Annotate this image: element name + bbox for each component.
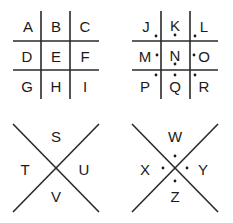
letter-h: H — [51, 78, 62, 95]
x-dotted: W X Y Z — [132, 124, 218, 212]
letter-u: U — [79, 161, 90, 178]
letter-v: V — [51, 188, 61, 205]
letter-j: J — [142, 18, 150, 35]
dot-icon — [174, 155, 177, 158]
letter-o: O — [198, 48, 210, 65]
dot-icon — [174, 63, 177, 66]
letter-z: Z — [170, 188, 179, 205]
letter-b: B — [51, 18, 61, 35]
grid-plain: A B C D E F G H I — [13, 11, 99, 99]
letter-i: I — [83, 78, 87, 95]
dot-icon — [155, 74, 158, 77]
letter-w: W — [168, 128, 183, 145]
dot-icon — [174, 180, 177, 183]
letter-a: A — [23, 18, 33, 35]
letter-t: T — [20, 161, 29, 178]
letter-c: C — [80, 18, 91, 35]
letter-f: F — [80, 48, 89, 65]
letter-g: G — [21, 78, 33, 95]
pigpen-diagram: A B C D E F G H I J K L M N O P Q R — [0, 0, 233, 223]
dot-icon — [174, 34, 177, 37]
letter-d: D — [22, 48, 33, 65]
dot-icon — [186, 167, 189, 170]
letter-n: N — [170, 47, 181, 64]
x-plain: S T U V — [13, 124, 99, 212]
letter-p: P — [140, 78, 150, 95]
dot-icon — [194, 74, 197, 77]
letter-r: R — [199, 78, 210, 95]
dot-icon — [174, 74, 177, 77]
dot-icon — [194, 35, 197, 38]
dot-icon — [193, 54, 196, 57]
letter-q: Q — [169, 78, 181, 95]
letter-m: M — [139, 48, 152, 65]
letter-l: L — [200, 18, 208, 35]
letter-x: X — [140, 161, 150, 178]
dot-icon — [155, 35, 158, 38]
letter-s: S — [51, 128, 61, 145]
dot-icon — [162, 167, 165, 170]
letter-y: Y — [198, 161, 208, 178]
grid-dotted: J K L M N O P Q R — [132, 11, 218, 99]
dot-icon — [156, 54, 159, 57]
letter-k: K — [170, 17, 180, 34]
letter-e: E — [51, 48, 61, 65]
